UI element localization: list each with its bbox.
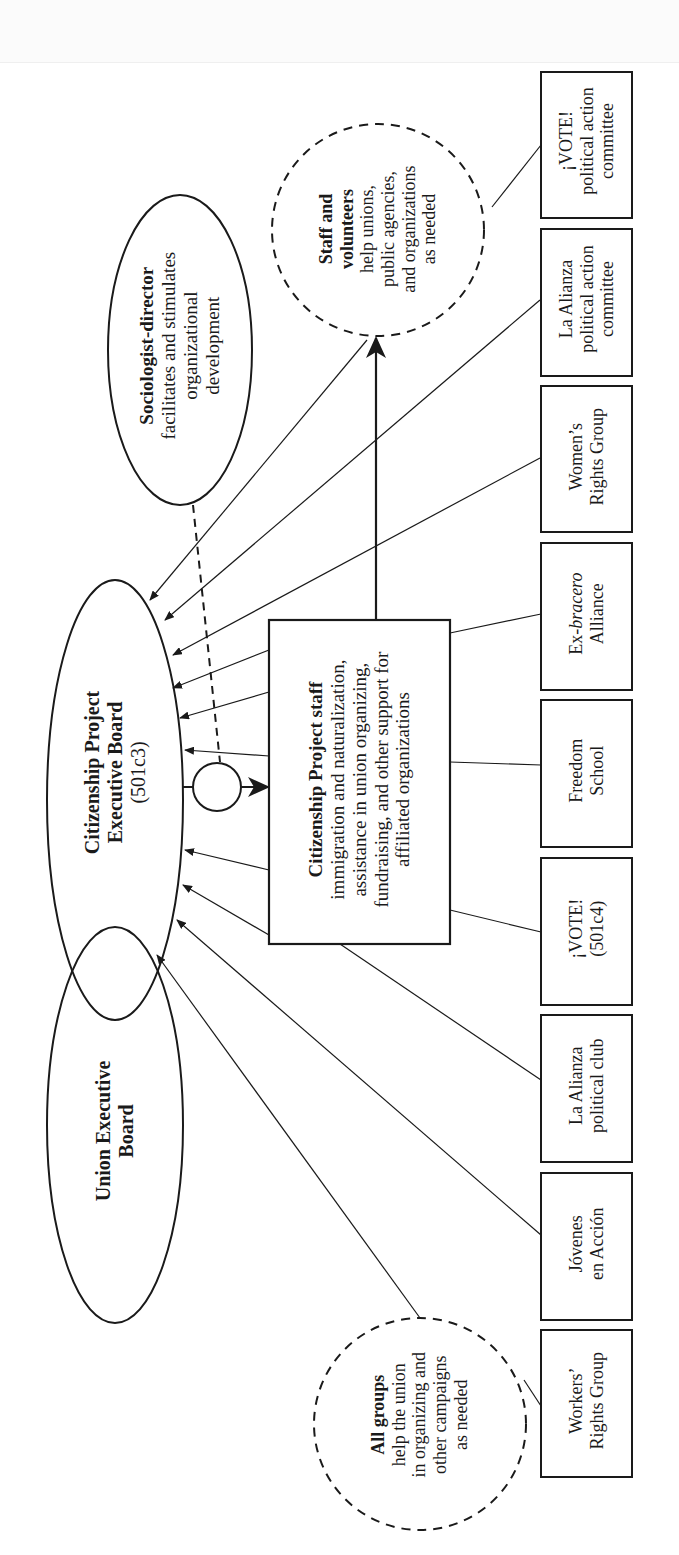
affiliate-workers-rights: Workers’ Rights Group (566, 1330, 607, 1472)
affiliate-alianza-pac: La Alianza political action committee (556, 228, 618, 370)
affiliate-alianza-club: La Alianza political club (566, 1015, 607, 1157)
staff-volunteers-label: Staff and volunteers help unions, public… (316, 134, 440, 324)
cp-staff-label: Citizenship Project staff immigration an… (305, 630, 414, 930)
union-board-label: Union Executive Board (92, 1031, 138, 1231)
all-groups-label: All groups help the union in organizing … (368, 1320, 471, 1510)
affiliate-ex-bracero: Ex-bracero Alliance (566, 543, 607, 685)
affiliate-vote-pac: ¡VOTE! political action committee (556, 70, 618, 212)
sociologist-label: Sociologist-director facilitates and sti… (136, 221, 223, 471)
cp-board-label: Citizenship Project Executive Board (501… (81, 663, 150, 883)
affiliate-vote-501c4: ¡VOTE! (501c4) (566, 858, 607, 1000)
affiliate-womens-rights: Women’s Rights Group (566, 386, 607, 528)
junction-circle (193, 763, 241, 811)
affiliate-jovenes-en-accion: Jóvenes en Acción (566, 1173, 607, 1315)
affiliate-freedom-school: Freedom School (566, 700, 607, 842)
